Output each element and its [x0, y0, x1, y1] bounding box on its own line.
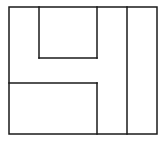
line-diagram: [0, 0, 164, 145]
diagram-background: [0, 0, 164, 145]
